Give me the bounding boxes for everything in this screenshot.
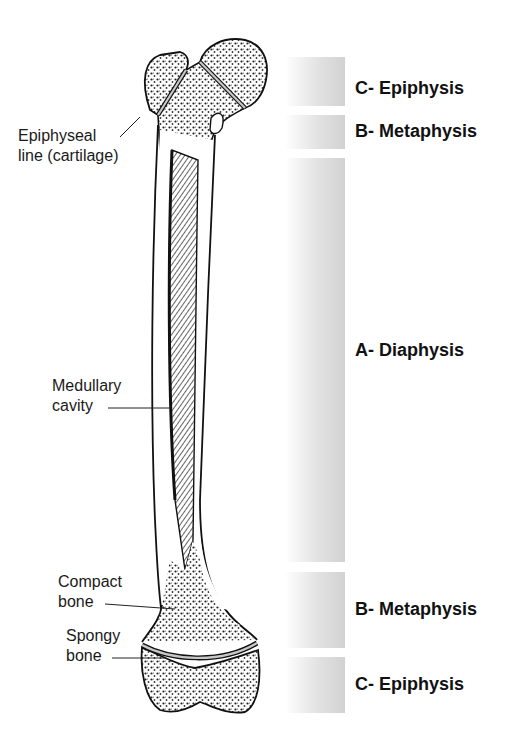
callout-medullary-cavity: Medullary cavity	[52, 376, 121, 416]
region-label-diaphysis: A- Diaphysis	[355, 340, 464, 361]
region-bar-epiphysis-proximal	[285, 57, 345, 106]
callout-text: Spongy	[66, 626, 120, 646]
region-label-metaphysis-distal: B- Metaphysis	[355, 599, 477, 620]
callout-text: Compact	[58, 572, 122, 592]
callout-text: Medullary	[52, 376, 121, 396]
callout-text: bone	[66, 646, 120, 666]
region-label-metaphysis-proximal: B- Metaphysis	[355, 121, 477, 142]
region-bar-epiphysis-distal	[285, 657, 345, 713]
callout-text: Epiphyseal	[18, 126, 118, 146]
region-bar-metaphysis-distal	[285, 572, 345, 648]
callout-text: bone	[58, 592, 122, 612]
leader-epiphyseal-line	[120, 117, 140, 137]
region-bar-diaphysis	[285, 158, 345, 562]
region-bar-metaphysis-proximal	[285, 115, 345, 149]
callout-spongy-bone: Spongy bone	[66, 626, 120, 666]
callout-epiphyseal-line: Epiphyseal line (cartilage)	[18, 126, 118, 166]
callout-text: line (cartilage)	[18, 146, 118, 166]
callout-compact-bone: Compact bone	[58, 572, 122, 612]
region-label-epiphysis-distal: C- Epiphysis	[355, 674, 464, 695]
callout-text: cavity	[52, 396, 121, 416]
region-label-epiphysis-proximal: C- Epiphysis	[355, 78, 464, 99]
